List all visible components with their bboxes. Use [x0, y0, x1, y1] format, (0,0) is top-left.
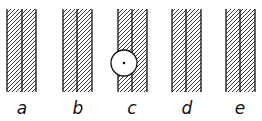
panel-c	[111, 9, 147, 92]
panel-d	[172, 9, 201, 92]
panel-label-b: b	[63, 98, 93, 118]
center-dot	[123, 62, 126, 65]
panel-label-a: a	[7, 98, 37, 118]
panel-label-c: c	[117, 98, 147, 118]
panel-e	[226, 9, 255, 92]
panel-a	[7, 9, 36, 92]
panel-label-e: e	[225, 98, 255, 118]
panel-label-d: d	[172, 98, 202, 118]
panel-b	[63, 9, 92, 92]
